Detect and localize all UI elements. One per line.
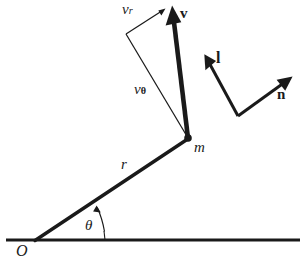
label-v-theta: vθ — [134, 82, 146, 97]
label-mass-symbol: m — [194, 139, 205, 155]
label-radius-symbol: r — [121, 156, 127, 172]
label-radius: r — [121, 157, 127, 172]
label-n-unit-vector: n — [277, 87, 285, 102]
label-v-radial-symbol: v — [122, 1, 129, 17]
label-origin: O — [16, 243, 28, 259]
label-theta-symbol: θ — [85, 217, 92, 233]
label-v-theta-subscript: θ — [141, 85, 146, 96]
label-l-unit-vector: l — [216, 50, 220, 66]
label-v-radial: vr — [122, 2, 133, 17]
velocity-vector-arrowhead — [166, 6, 182, 26]
label-l-unit-vector-symbol: l — [216, 49, 220, 66]
theta-arc-arrowhead — [93, 206, 101, 213]
label-velocity-vector-symbol: v — [180, 5, 188, 21]
diagram-canvas — [0, 0, 304, 269]
velocity-vector-shaft — [174, 19, 188, 138]
label-v-theta-symbol: v — [134, 81, 141, 97]
label-origin-symbol: O — [16, 242, 28, 259]
label-mass: m — [194, 140, 205, 155]
label-velocity-vector: v — [180, 6, 188, 21]
l-unit-vector-shaft — [210, 64, 239, 117]
mass-point-dot — [184, 134, 192, 142]
label-n-unit-vector-symbol: n — [277, 86, 285, 102]
radius-line — [35, 139, 189, 241]
label-theta: θ — [85, 218, 92, 233]
label-v-radial-subscript: r — [129, 5, 133, 16]
physics-diagram: vr v vθ l n m r θ O — [0, 0, 304, 269]
vr-arrowhead — [158, 9, 165, 16]
